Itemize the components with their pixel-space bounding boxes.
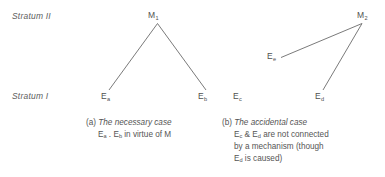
node-label-ed: Ed: [315, 92, 324, 101]
node-ee-base: E: [267, 51, 273, 61]
caption-a-line2-ea-sub: a: [103, 133, 106, 139]
caption-b-line4-ed-sub: d: [239, 157, 242, 163]
node-eb-base: E: [198, 91, 204, 101]
node-label-m2: M2: [357, 11, 367, 20]
stratum-ii-label: Stratum II: [12, 11, 51, 21]
caption-b-line3: by a mechanism (though: [222, 141, 329, 153]
caption-b: (b) The accidental case Ec & Ed are not …: [222, 117, 329, 165]
caption-b-line4-tail: is caused): [243, 154, 283, 163]
caption-a-tag: (a): [86, 118, 96, 127]
node-eb-subscript: b: [204, 96, 207, 102]
edge-m2-ee: [281, 24, 362, 58]
node-label-ea: Ea: [101, 92, 110, 101]
caption-b-tag: (b): [222, 118, 232, 127]
caption-a: (a) The necessary case Ea . Eb in virtue…: [86, 117, 172, 141]
node-label-ec: Ec: [233, 92, 241, 101]
node-label-eb: Eb: [198, 92, 207, 101]
caption-b-line2-amp: &: [245, 130, 250, 139]
node-ed-subscript: d: [321, 96, 324, 102]
node-ed-base: E: [315, 91, 321, 101]
node-ea-base: E: [101, 91, 107, 101]
edge-m1-eb: [158, 24, 207, 91]
caption-b-line2-ec-sub: c: [239, 133, 242, 139]
stratum-i-label: Stratum I: [12, 91, 48, 101]
caption-b-line2-ed-base: E: [252, 130, 257, 139]
caption-b-line2: Ec & Ed are not connected: [222, 129, 329, 142]
edge-m1-ea: [109, 24, 158, 91]
node-ec-subscript: c: [239, 96, 242, 102]
stratum-diagram-figure: Stratum II Stratum I M1 Ea Eb M2 Ee Ec E…: [0, 0, 385, 177]
edge-m2-ed: [323, 24, 362, 91]
node-m1-subscript: 1: [155, 15, 158, 21]
caption-a-line2: Ea . Eb in virtue of M: [86, 129, 172, 142]
caption-b-line4: Ed is caused): [222, 153, 329, 166]
caption-b-line2-ed-sub: d: [258, 133, 261, 139]
caption-b-headline: The accidental case: [234, 118, 307, 127]
node-label-m1: M1: [148, 11, 158, 20]
node-ea-subscript: a: [107, 96, 110, 102]
node-m2-subscript: 2: [364, 15, 367, 21]
node-ee-subscript: e: [273, 56, 276, 62]
caption-b-line2-tail: are not connected: [261, 130, 329, 139]
caption-a-line2-eb-sub: b: [119, 133, 122, 139]
caption-a-line2-tail: in virtue of M: [122, 130, 171, 139]
caption-a-headline: The necessary case: [98, 118, 171, 127]
node-label-ee: Ee: [267, 52, 276, 61]
node-ec-base: E: [233, 91, 239, 101]
